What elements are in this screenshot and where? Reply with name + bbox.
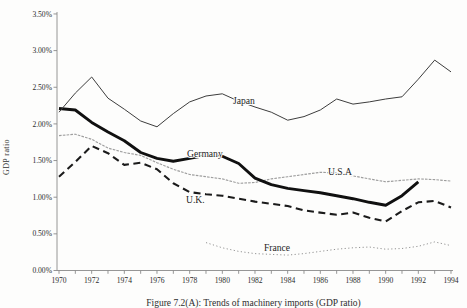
series-line-uk [59,146,451,222]
x-tick-label: 1976 [149,276,164,285]
series-line-france [206,242,451,255]
gdp-ratio-line-chart: 3.50%3.00%2.50%2.00%1.50%1.00%0.50%0.00%… [0,0,467,308]
series-line-japan [59,60,451,127]
y-axis-title: GDP ratio [2,139,11,175]
x-tick-label: 1988 [345,276,360,285]
y-tick-label: 1.50% [32,156,52,165]
x-tick-label: 1970 [51,276,66,285]
y-tick-label: 3.50% [32,10,52,19]
x-tick-label: 1990 [378,276,393,285]
y-tick-label: 3.00% [32,46,52,55]
series-label-japan: Japan [233,95,255,106]
y-tick-label: 2.50% [32,83,52,92]
y-tick-label: 0.50% [32,229,52,238]
series-label-germany: Germany [187,148,223,159]
series-label-uk: U.K. [186,194,205,205]
x-tick-label: 1980 [215,276,230,285]
x-tick-label: 1994 [443,276,458,285]
figure-caption: Figure 7.2(A): Trends of machinery impor… [40,298,467,308]
x-tick-label: 1974 [117,276,132,285]
series-line-usa [59,134,451,183]
series-label-france: France [264,242,290,253]
chart-canvas: 3.50%3.00%2.50%2.00%1.50%1.00%0.50%0.00%… [0,0,467,308]
x-tick-label: 1992 [411,276,426,285]
x-tick-label: 1986 [313,276,328,285]
x-tick-label: 1978 [182,276,197,285]
x-tick-label: 1982 [247,276,262,285]
series-label-usa: U.S.A [328,166,352,177]
y-tick-label: 2.00% [32,120,52,129]
y-tick-label: 0.00% [32,266,52,275]
y-tick-label: 1.00% [32,193,52,202]
x-tick-label: 1972 [84,276,99,285]
x-tick-label: 1984 [280,276,295,285]
series-line-germany [59,109,418,206]
